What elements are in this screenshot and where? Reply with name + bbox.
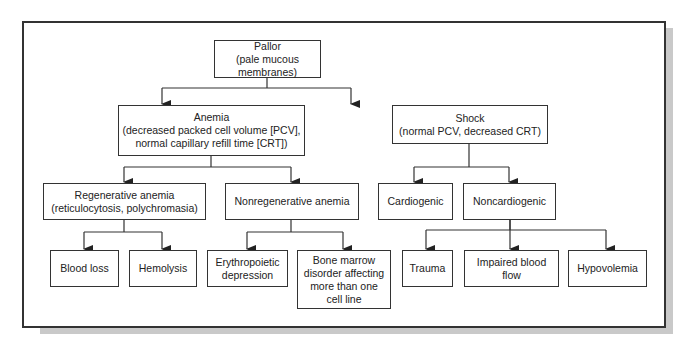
node-erythropoietic-line1: Erythropoietic [215,256,279,268]
node-impaired-line2: flow [502,269,521,281]
node-impaired-line1: Impaired blood [477,256,546,268]
node-noncardiogenic: Noncardiogenic [463,183,556,220]
node-bone-marrow-line3: more than one [310,280,378,292]
node-noncardiogenic-title: Noncardiogenic [473,195,546,208]
node-shock-title: Shock [455,112,484,124]
node-blood-loss-title: Blood loss [60,262,108,275]
node-hypovolemia: Hypovolemia [568,250,647,287]
node-nonregenerative-anemia: Nonregenerative anemia [225,183,359,220]
node-bone-marrow-disorder: Bone marrow disorder affecting more than… [297,250,391,309]
node-hemolysis-title: Hemolysis [139,262,187,275]
node-anemia: Anemia (decreased packed cell volume [PC… [118,105,305,156]
node-shock-subtitle: (normal PCV, decreased CRT) [399,125,541,137]
node-trauma-title: Trauma [410,262,446,275]
node-pallor-subtitle: (pale mucous membranes) [236,53,299,78]
node-anemia-line3: normal capillary refill time [CRT]) [135,137,287,149]
node-hypovolemia-title: Hypovolemia [577,262,638,275]
node-pallor: Pallor (pale mucous membranes) [214,40,321,78]
node-erythropoietic-line2: depression [222,269,273,281]
node-regenerative-anemia: Regenerative anemia (reticulocytosis, po… [43,183,206,220]
node-regenerative-title: Regenerative anemia [75,189,175,201]
node-blood-loss: Blood loss [50,250,119,287]
node-anemia-line2: (decreased packed cell volume [PCV], [122,124,300,136]
node-shock: Shock (normal PCV, decreased CRT) [392,105,548,144]
node-cardiogenic-title: Cardiogenic [387,195,443,208]
node-anemia-title: Anemia [194,111,230,123]
node-trauma: Trauma [402,250,453,287]
node-regenerative-subtitle: (reticulocytosis, polychromasia) [51,202,197,214]
node-nonregenerative-title: Nonregenerative anemia [235,195,350,208]
node-bone-marrow-line1: Bone marrow [313,254,375,266]
node-cardiogenic: Cardiogenic [378,183,453,220]
node-bone-marrow-line2: disorder affecting [304,267,384,279]
node-pallor-title: Pallor [254,40,281,52]
node-bone-marrow-line4: cell line [326,293,361,305]
node-erythropoietic-depression: Erythropoietic depression [207,250,288,287]
node-hemolysis: Hemolysis [129,250,197,287]
node-impaired-blood-flow: Impaired blood flow [464,250,559,287]
